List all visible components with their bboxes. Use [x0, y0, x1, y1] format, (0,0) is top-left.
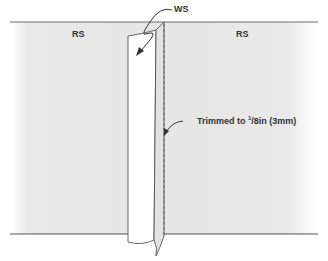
trimmed-label: Trimmed to 1/8in (3mm) [197, 115, 296, 126]
diagram-lines [0, 0, 328, 261]
ws-label: WS [174, 4, 189, 14]
trimmed-label-prefix: Trimmed to [197, 116, 248, 126]
trimmed-leader-line [166, 121, 183, 132]
rs-label-left: RS [72, 29, 85, 39]
rs-label-right: RS [236, 29, 249, 39]
trimmed-label-fraction-rest: /8in (3mm) [251, 116, 296, 126]
diagram-canvas: RS RS WS Trimmed to 1/8in (3mm) [0, 0, 328, 261]
seam-allowance-underside [154, 22, 164, 256]
folded-seam-allowance [128, 30, 156, 244]
